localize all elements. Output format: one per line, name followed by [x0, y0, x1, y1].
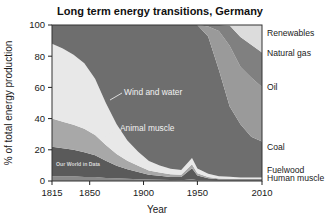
y-tick-label: 40: [34, 113, 45, 124]
series-label-human-muscle: Human muscle: [267, 173, 325, 183]
annotation-wind-and-water: Wind and water: [124, 87, 182, 97]
x-tick-label: 1950: [187, 187, 208, 198]
x-tick-label: 1900: [133, 187, 154, 198]
series-labels-right: RenewablesNatural gasOilCoalFuelwoodHuma…: [267, 28, 325, 183]
chart-title: Long term energy transitions, Germany: [57, 5, 264, 17]
watermark-our-world-in-data: Our World in Data: [56, 161, 100, 167]
y-tick-label: 100: [29, 19, 45, 30]
x-tick-label: 2010: [251, 187, 272, 198]
energy-transitions-area-chart: Long term energy transitions, Germany Ou…: [0, 0, 335, 223]
series-label-natural-gas: Natural gas: [267, 48, 311, 58]
series-label-renewables: Renewables: [267, 28, 314, 38]
series-label-coal: Coal: [267, 142, 285, 152]
x-tick-label: 1850: [79, 187, 100, 198]
series-label-oil: Oil: [267, 82, 278, 92]
y-axis-title: % of total energy production: [3, 41, 14, 166]
y-tick-label: 0: [40, 175, 45, 186]
x-axis: 18151850190019502010: [41, 181, 272, 198]
y-tick-label: 80: [34, 51, 45, 62]
x-tick-label: 1815: [41, 187, 62, 198]
y-axis: 020406080100: [29, 19, 52, 186]
x-axis-title: Year: [147, 204, 168, 215]
annotation-animal-muscle: Animal muscle: [120, 123, 175, 133]
y-tick-label: 60: [34, 82, 45, 93]
y-tick-label: 20: [34, 144, 45, 155]
stacked-areas: [52, 25, 262, 181]
chart-container: Long term energy transitions, Germany Ou…: [0, 0, 335, 223]
